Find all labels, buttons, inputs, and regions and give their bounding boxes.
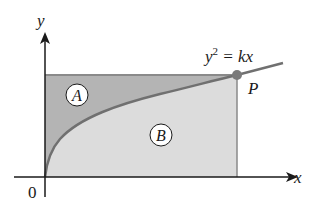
origin-label: 0 [28, 183, 37, 202]
x-axis-label: x [293, 168, 302, 187]
parabola-area-diagram: A B P y x 0 y2 = kx [0, 0, 316, 220]
region-a-label: A [71, 87, 82, 104]
point-p-marker [232, 70, 242, 80]
region-b-label: B [156, 127, 166, 144]
equation-rest: = kx [218, 47, 254, 66]
equation-base: y [203, 47, 213, 66]
equation-label: y2 = kx [203, 45, 254, 66]
y-axis-label: y [35, 11, 45, 30]
point-p-label: P [247, 79, 258, 98]
